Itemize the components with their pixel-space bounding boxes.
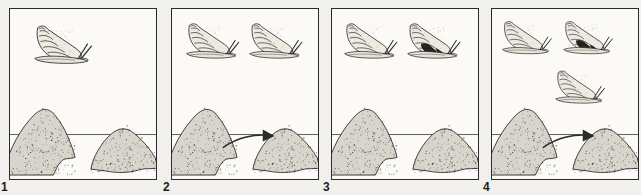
- panel-3: [331, 8, 479, 180]
- mound-left: [492, 108, 558, 175]
- panel-4-artwork: [492, 9, 638, 179]
- mound-right: [253, 125, 318, 173]
- mound-left: [172, 108, 238, 175]
- snail-light-lower-right: [556, 71, 605, 103]
- snail-light-left: [35, 26, 92, 63]
- panel-number-2: 2: [163, 181, 170, 193]
- snail-dispersal-figure: 1 23 4: [0, 0, 641, 195]
- panel-3-artwork: [332, 9, 478, 179]
- panel-1: [9, 8, 157, 180]
- snail-banded-right: [408, 24, 460, 58]
- mound-right: [573, 125, 638, 173]
- mound-right: [91, 125, 156, 173]
- mound-left: [10, 108, 76, 175]
- panel-number-1: 1: [1, 181, 8, 193]
- panel-number-3: 3: [323, 181, 330, 193]
- panel-2: [171, 8, 319, 180]
- snail-light-left: [345, 24, 397, 58]
- snail-light-left: [502, 22, 551, 54]
- panel-number-4: 4: [483, 181, 490, 193]
- mound-left: [332, 108, 398, 175]
- panel-2-artwork: [172, 9, 318, 179]
- snail-light-left: [187, 24, 239, 58]
- snail-banded-right: [564, 22, 613, 54]
- panel-1-artwork: [10, 9, 156, 179]
- mound-right: [413, 125, 478, 173]
- snail-light-right: [250, 24, 302, 58]
- panel-4: [491, 8, 639, 180]
